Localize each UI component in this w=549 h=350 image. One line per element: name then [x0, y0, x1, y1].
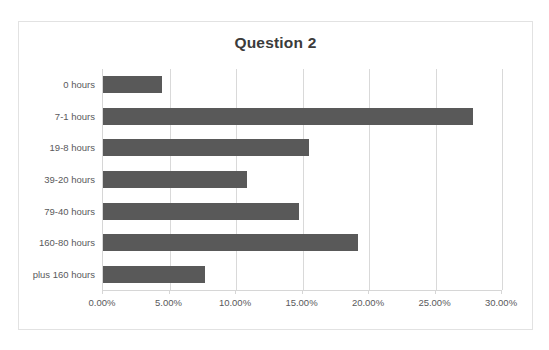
category-axis-label: plus 160 hours [19, 258, 102, 290]
value-axis-tick [169, 290, 170, 294]
value-axis-tick [368, 290, 369, 294]
bar[interactable] [103, 203, 299, 220]
bar-row [103, 132, 502, 164]
bar-row [103, 227, 502, 259]
bar-series [103, 69, 502, 290]
value-axis-label: 0.00% [89, 297, 116, 308]
category-axis: 0 hours 7-1 hours 19-8 hours 39-20 hours… [19, 69, 102, 290]
category-axis-label: 160-80 hours [19, 227, 102, 259]
value-axis-label: 10.00% [219, 297, 251, 308]
bar[interactable] [103, 139, 309, 156]
value-axis-tick [435, 290, 436, 294]
value-axis-label: 15.00% [285, 297, 317, 308]
bar[interactable] [103, 76, 162, 93]
category-axis-label: 79-40 hours [19, 195, 102, 227]
bar[interactable] [103, 234, 358, 251]
value-axis: 0.00%5.00%10.00%15.00%20.00%25.00%30.00% [102, 290, 501, 314]
value-axis-tick [302, 290, 303, 294]
value-axis-tick [102, 290, 103, 294]
gridline [502, 69, 503, 290]
bar-row [103, 258, 502, 290]
chart-title: Question 2 [19, 34, 532, 52]
bar-row [103, 195, 502, 227]
plot-wrapper: 0 hours 7-1 hours 19-8 hours 39-20 hours… [19, 69, 534, 331]
chart-container: Question 2 0 hours 7-1 hours 19-8 hours … [18, 21, 533, 330]
bar-row [103, 69, 502, 101]
category-axis-label: 39-20 hours [19, 164, 102, 196]
value-axis-tick [501, 290, 502, 294]
bar[interactable] [103, 171, 247, 188]
value-axis-label: 20.00% [352, 297, 384, 308]
bar-row [103, 164, 502, 196]
bar[interactable] [103, 266, 205, 283]
bar-row [103, 101, 502, 133]
category-axis-label: 7-1 hours [19, 101, 102, 133]
category-axis-label: 0 hours [19, 69, 102, 101]
value-axis-tick [235, 290, 236, 294]
value-axis-label: 25.00% [418, 297, 450, 308]
bar[interactable] [103, 108, 473, 125]
value-axis-label: 5.00% [155, 297, 182, 308]
category-axis-label: 19-8 hours [19, 132, 102, 164]
plot-area [102, 69, 502, 290]
value-axis-label: 30.00% [485, 297, 517, 308]
